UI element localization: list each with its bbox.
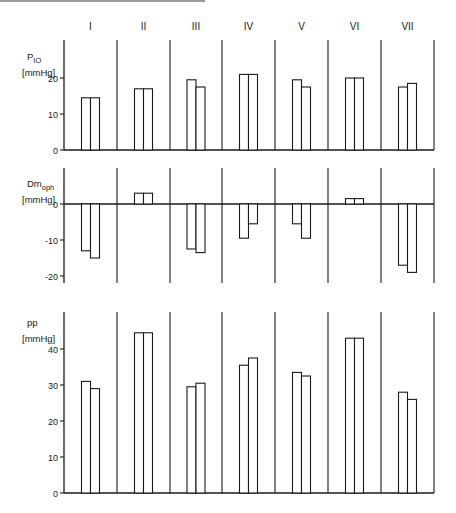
bar-I-2: [91, 98, 100, 150]
y-tick-label: 0: [53, 489, 58, 499]
bar-V-1: [293, 372, 302, 493]
bar-V-2: [302, 87, 311, 150]
bar-VI-1: [346, 338, 355, 493]
bar-VII-1: [399, 392, 408, 493]
bar-VI-1: [346, 199, 355, 204]
category-label: I: [89, 21, 92, 32]
bar-I-1: [82, 98, 91, 150]
bar-V-2: [302, 376, 311, 493]
bar-IV-2: [249, 358, 258, 493]
bar-V-1: [293, 204, 302, 224]
y-tick-label: 30: [48, 381, 58, 391]
bar-I-1: [82, 204, 91, 251]
bar-IV-2: [249, 74, 258, 150]
bar-VI-2: [355, 199, 364, 204]
y-tick-label: 10: [48, 110, 58, 120]
y-tick-label: 40: [48, 345, 58, 355]
bar-VII-1: [399, 204, 408, 265]
bar-IV-2: [249, 204, 258, 224]
panel-bottom: 010203040pp[mmHg]: [22, 312, 434, 499]
panel-top: 01020PIO[mmHg]IIIIIIIVVVIVII: [22, 21, 434, 156]
category-label: II: [141, 21, 147, 32]
bar-II-2: [144, 193, 153, 204]
bar-III-2: [196, 87, 205, 150]
bar-II-1: [135, 333, 144, 493]
panel-middle: 0-10-20Dmoph[mmHg]: [22, 168, 434, 283]
y-axis-label: pp: [27, 317, 38, 328]
y-axis-label: PIO: [27, 51, 41, 65]
bar-VI-1: [346, 78, 355, 150]
bar-I-1: [82, 381, 91, 493]
bar-IV-1: [240, 74, 249, 150]
y-axis-label: Dmoph: [27, 178, 54, 192]
y-axis-unit: [mmHg]: [22, 333, 55, 344]
bar-III-1: [187, 387, 196, 493]
bar-II-2: [144, 333, 153, 493]
bar-IV-1: [240, 204, 249, 238]
y-tick-label: -10: [45, 236, 58, 246]
bar-VII-1: [399, 87, 408, 150]
y-tick-label: 0: [53, 146, 58, 156]
bar-VI-2: [355, 338, 364, 493]
bar-I-2: [91, 389, 100, 493]
bar-VII-2: [408, 204, 417, 272]
bar-VII-2: [408, 83, 417, 150]
y-tick-label: -20: [45, 272, 58, 282]
bar-II-1: [135, 89, 144, 150]
bar-VI-2: [355, 78, 364, 150]
bar-II-1: [135, 193, 144, 204]
category-label: III: [192, 21, 200, 32]
category-label: IV: [244, 21, 254, 32]
bar-III-2: [196, 204, 205, 253]
category-label: VI: [350, 21, 359, 32]
category-label: VII: [401, 21, 413, 32]
y-axis-unit: [mmHg]: [22, 67, 55, 78]
bar-VII-2: [408, 399, 417, 493]
category-label: V: [298, 21, 305, 32]
y-tick-label: 10: [48, 453, 58, 463]
y-tick-label: 20: [48, 417, 58, 427]
bar-V-2: [302, 204, 311, 238]
bar-V-1: [293, 80, 302, 150]
chart-figure: 01020PIO[mmHg]IIIIIIIVVVIVII0-10-20Dmoph…: [0, 0, 456, 513]
bar-II-2: [144, 89, 153, 150]
bar-IV-1: [240, 365, 249, 493]
bar-III-1: [187, 204, 196, 249]
bar-III-2: [196, 383, 205, 493]
bar-III-1: [187, 80, 196, 150]
bar-I-2: [91, 204, 100, 258]
y-axis-unit: [mmHg]: [22, 194, 55, 205]
